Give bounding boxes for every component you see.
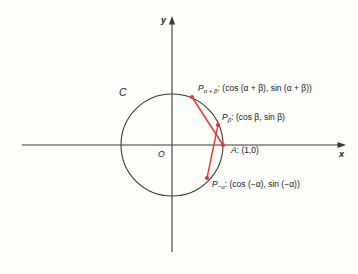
label-point-a-coords: : (1,0) bbox=[237, 145, 259, 155]
label-p-beta: Pβ: (cos β, sin β) bbox=[222, 113, 285, 123]
label-p-minus-alpha: P−α: (cos (−α), sin (−α)) bbox=[212, 180, 300, 190]
y-axis-arrowhead bbox=[169, 16, 175, 25]
label-p-minus-alpha-coords: : (cos (−α), sin (−α)) bbox=[225, 179, 300, 189]
label-p-alpha-beta: Pα + β: (cos (α + β), sin (α + β)) bbox=[198, 84, 312, 94]
label-p-alpha-beta-coords: : (cos (α + β), sin (α + β)) bbox=[218, 83, 312, 93]
origin-label: O bbox=[158, 150, 165, 159]
unit-circle-diagram: y x C O Pα + β: (cos (α + β), sin (α + β… bbox=[0, 0, 358, 274]
point-marker-p-minus-alpha bbox=[205, 176, 209, 180]
label-p-beta-coords: : (cos β, sin β) bbox=[231, 112, 285, 122]
point-marker-p-alpha-beta bbox=[190, 95, 194, 99]
diagram-canvas bbox=[0, 0, 358, 274]
chord-alpha-beta-to-a bbox=[192, 97, 223, 145]
circle-name-label: C bbox=[119, 87, 127, 98]
y-axis-label: y bbox=[161, 16, 166, 25]
point-marker-p-beta bbox=[216, 123, 220, 127]
label-p-alpha-beta-subscript: α + β bbox=[204, 87, 218, 94]
point-marker-a bbox=[221, 143, 225, 147]
label-p-minus-alpha-subscript: −α bbox=[218, 183, 225, 190]
label-point-a: A: (1,0) bbox=[231, 146, 259, 155]
x-axis-label: x bbox=[339, 150, 344, 159]
x-axis-arrowhead bbox=[338, 142, 347, 148]
